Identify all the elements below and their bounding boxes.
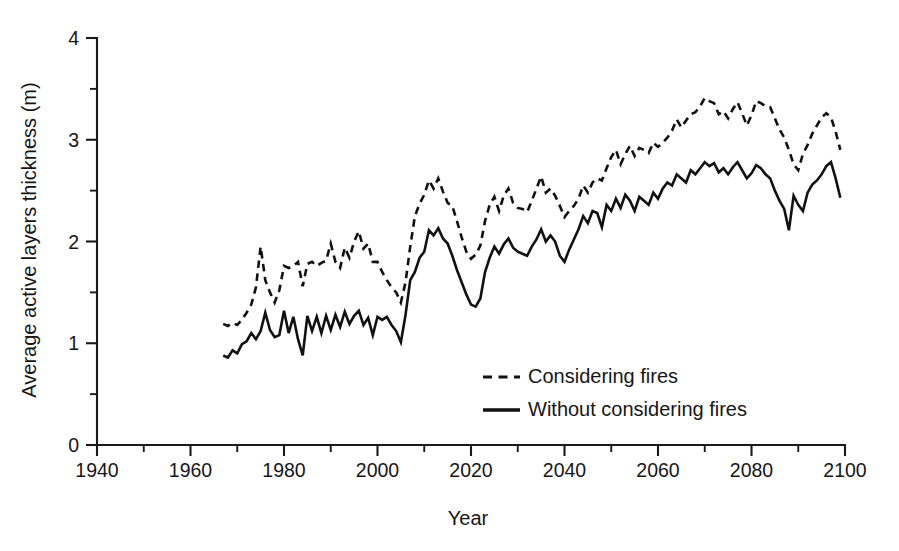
chart-figure: 01234 1940196019802000202020402060208021… xyxy=(0,0,899,551)
line-chart-svg: 01234 1940196019802000202020402060208021… xyxy=(0,0,899,551)
chart-legend: Considering fires Without considering fi… xyxy=(483,365,747,420)
y-tick-label: 3 xyxy=(68,129,79,151)
x-tick-label: 2020 xyxy=(449,459,493,481)
x-axis-tick-labels: 194019601980200020202040206020802100 xyxy=(75,459,867,481)
legend-label-without-considering-fires: Without considering fires xyxy=(528,398,747,420)
x-tick-label: 2100 xyxy=(823,459,867,481)
y-axis-title: Average active layers thickness (m) xyxy=(18,82,40,397)
x-axis-ticks xyxy=(97,445,845,456)
x-tick-label: 1940 xyxy=(75,459,119,481)
x-tick-label: 1960 xyxy=(169,459,213,481)
series-considering-fires xyxy=(223,98,840,326)
y-tick-label: 4 xyxy=(68,27,79,49)
x-tick-label: 2060 xyxy=(636,459,680,481)
axes xyxy=(97,38,845,445)
y-tick-label: 1 xyxy=(68,332,79,354)
y-axis-tick-labels: 01234 xyxy=(68,27,79,456)
series-without-considering-fires xyxy=(223,162,840,357)
x-tick-label: 1980 xyxy=(262,459,306,481)
y-tick-label: 2 xyxy=(68,231,79,253)
x-tick-label: 2000 xyxy=(356,459,400,481)
x-tick-label: 2080 xyxy=(730,459,774,481)
x-tick-label: 2040 xyxy=(543,459,587,481)
legend-label-considering-fires: Considering fires xyxy=(528,365,678,387)
x-axis-title: Year xyxy=(448,507,489,529)
data-series-group xyxy=(223,98,840,357)
y-axis-ticks xyxy=(86,38,97,445)
y-tick-label: 0 xyxy=(68,434,79,456)
